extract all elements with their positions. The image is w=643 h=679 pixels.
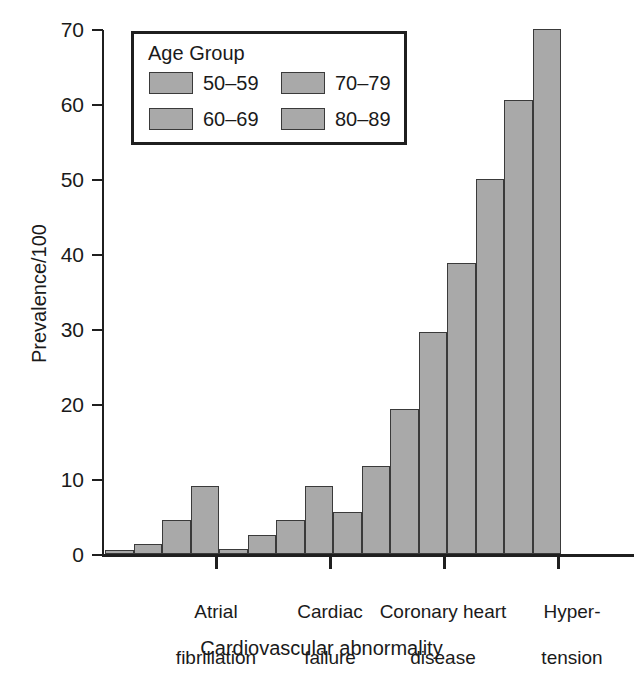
legend-swatch-60-69 bbox=[149, 108, 193, 130]
x-tick-coronary-heart-disease bbox=[443, 557, 446, 569]
legend-label-50-59: 50–59 bbox=[203, 70, 259, 96]
x-axis-title: Cardiovascular abnormality bbox=[0, 637, 643, 660]
bar-coronary-heart-disease-70-79 bbox=[390, 409, 419, 555]
bar-cardiac-failure-80-89 bbox=[305, 486, 334, 554]
bar-hypertension-60-69 bbox=[476, 179, 505, 554]
legend-box: Age Group 50–59 70–79 60–69 80–89 bbox=[131, 31, 407, 145]
legend-label-70-79: 70–79 bbox=[335, 70, 391, 96]
bar-chart-figure: 70 60 50 40 30 20 10 0 Prevalence/100 At… bbox=[0, 0, 643, 679]
x-category-label-coronary-heart-disease: Coronary heart disease bbox=[370, 577, 516, 679]
x-category-label-line1: Coronary heart bbox=[370, 600, 516, 623]
x-category-label-hypertension: Hyper- tension bbox=[512, 577, 632, 679]
legend-label-60-69: 60–69 bbox=[203, 106, 259, 132]
bar-atrial-fibrillation-70-79 bbox=[162, 520, 191, 555]
x-tick-cardiac-failure bbox=[329, 557, 332, 569]
bar-coronary-heart-disease-60-69 bbox=[362, 466, 391, 555]
legend-swatch-70-79 bbox=[281, 72, 325, 94]
bar-hypertension-70-79 bbox=[504, 100, 533, 555]
bar-atrial-fibrillation-60-69 bbox=[134, 544, 163, 555]
legend-swatch-50-59 bbox=[149, 72, 193, 94]
legend-title: Age Group bbox=[148, 42, 245, 64]
x-tick-hypertension bbox=[557, 557, 560, 569]
bar-hypertension-50-59 bbox=[447, 263, 476, 554]
x-axis-line bbox=[102, 554, 634, 557]
bar-hypertension-80-89 bbox=[533, 29, 562, 554]
bar-coronary-heart-disease-50-59 bbox=[333, 512, 362, 554]
x-category-label-line1: Hyper- bbox=[512, 600, 632, 623]
bar-coronary-heart-disease-80-89 bbox=[419, 332, 448, 554]
x-tick-atrial-fibrillation bbox=[215, 557, 218, 569]
bar-cardiac-failure-70-79 bbox=[276, 520, 305, 555]
legend-label-80-89: 80–89 bbox=[335, 106, 391, 132]
bar-atrial-fibrillation-80-89 bbox=[191, 486, 220, 554]
bar-cardiac-failure-60-69 bbox=[248, 535, 277, 554]
legend-swatch-80-89 bbox=[281, 108, 325, 130]
